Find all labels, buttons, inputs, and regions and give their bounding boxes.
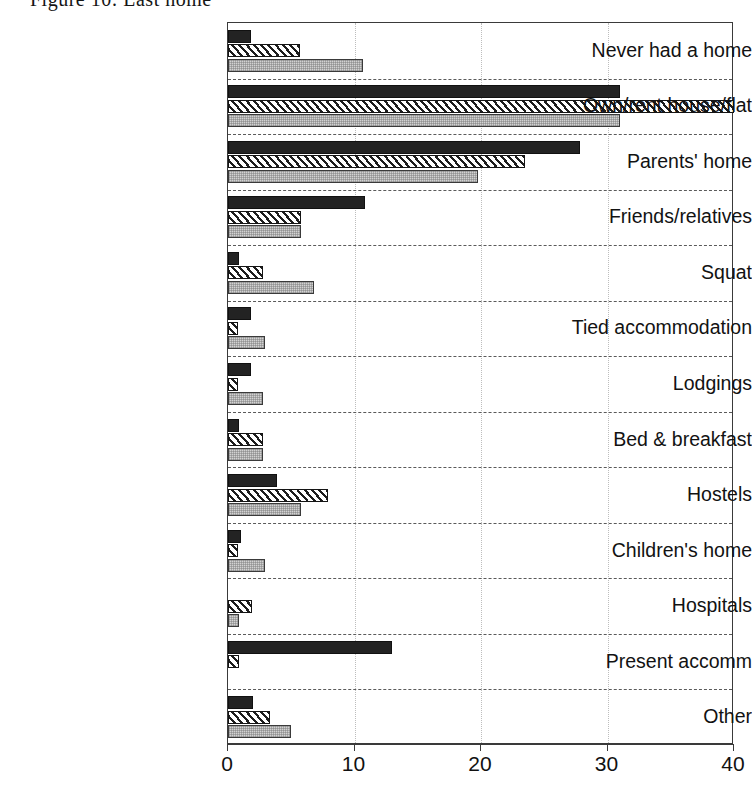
category-label: Never had a home [533, 39, 752, 61]
x-tick-mark [354, 744, 355, 751]
category-label: Lodgings [533, 372, 752, 394]
category-label: Own/rent house/flat [533, 94, 752, 116]
category-separator [228, 356, 732, 357]
x-tick-label: 0 [221, 752, 233, 776]
x-tick-mark [733, 744, 734, 751]
category-separator [228, 578, 732, 579]
bar [228, 433, 263, 446]
x-tick-label: 30 [595, 752, 618, 776]
category-separator [228, 245, 732, 246]
bar [228, 725, 291, 738]
category-label: Children's home [533, 539, 752, 561]
bar [228, 196, 365, 209]
bar [228, 530, 241, 543]
category-label: Bed & breakfast [533, 428, 752, 450]
category-separator [228, 467, 732, 468]
bar [228, 559, 265, 572]
bar [228, 322, 238, 335]
bar [228, 544, 238, 557]
bar [228, 363, 251, 376]
category-label: Parents' home [533, 150, 752, 172]
bar [228, 170, 478, 183]
bar [228, 281, 314, 294]
category-label: Friends/relatives [533, 205, 752, 227]
x-tick-label: 40 [721, 752, 744, 776]
bar [228, 711, 270, 724]
category-separator [228, 79, 732, 80]
bar [228, 252, 239, 265]
category-separator [228, 689, 732, 690]
category-separator [228, 523, 732, 524]
category-label: Squat [533, 261, 752, 283]
x-tick-mark [227, 744, 228, 751]
x-tick-mark [480, 744, 481, 751]
bar [228, 419, 239, 432]
category-label: Present accomm [533, 650, 752, 672]
bar [228, 30, 251, 43]
bar [228, 641, 392, 654]
category-separator [228, 301, 732, 302]
bar [228, 336, 265, 349]
bar [228, 266, 263, 279]
x-tick-mark [607, 744, 608, 751]
bar [228, 614, 239, 627]
category-label: Hostels [533, 483, 752, 505]
bar [228, 696, 253, 709]
category-separator [228, 134, 732, 135]
bar [228, 378, 238, 391]
bar [228, 503, 301, 516]
bar [228, 307, 251, 320]
bar [228, 211, 301, 224]
bar [228, 44, 300, 57]
category-separator [228, 190, 732, 191]
category-separator [228, 634, 732, 635]
category-label: Tied accommodation [533, 316, 752, 338]
bar [228, 474, 277, 487]
bar [228, 600, 252, 613]
category-separator [228, 412, 732, 413]
bar [228, 489, 328, 502]
bar-chart: Never had a homeOwn/rent house/flatParen… [0, 0, 752, 797]
category-label: Hospitals [533, 594, 752, 616]
x-tick-label: 10 [342, 752, 365, 776]
bar [228, 448, 263, 461]
bar [228, 155, 525, 168]
bar [228, 59, 363, 72]
x-tick-label: 20 [468, 752, 491, 776]
category-label: Other [533, 705, 752, 727]
bar [228, 225, 301, 238]
bar [228, 141, 580, 154]
bar [228, 392, 263, 405]
bar [228, 655, 239, 668]
